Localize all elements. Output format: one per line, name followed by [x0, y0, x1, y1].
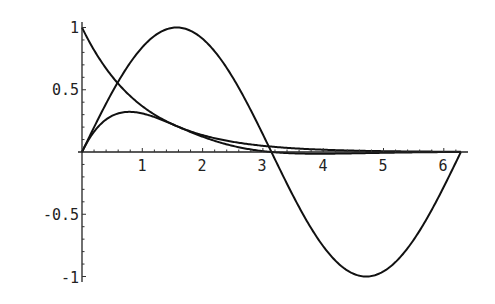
x-tick-labels: 1 2 3 4 5 6	[137, 157, 447, 175]
y-tick-labels: 1 0.5 -0.5 -1	[43, 19, 79, 287]
y-tick-label-1: 1	[70, 19, 79, 37]
x-tick-label-1: 1	[137, 157, 146, 175]
x-tick-label-4: 4	[318, 157, 327, 175]
line-chart: 1 2 3 4 5 6 1 0.5 -0.5 -1	[0, 0, 495, 304]
x-tick-label-6: 6	[438, 157, 447, 175]
axes	[78, 22, 468, 282]
x-tick-label-5: 5	[378, 157, 387, 175]
curve-exp-x-	[82, 28, 461, 152]
x-tick-label-2: 2	[197, 157, 206, 175]
y-tick-label-neg0.5: -0.5	[43, 206, 79, 224]
x-tick-label-3: 3	[257, 157, 266, 175]
y-tick-label-neg1: -1	[61, 269, 79, 287]
y-tick-label-0.5: 0.5	[52, 81, 79, 99]
